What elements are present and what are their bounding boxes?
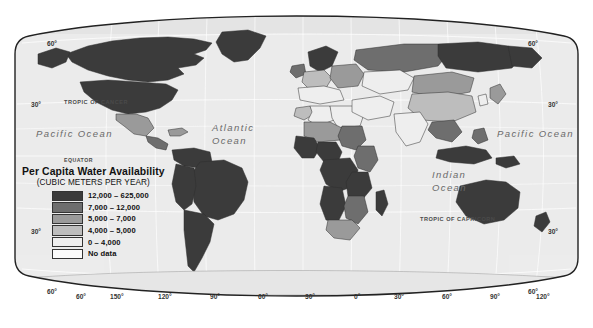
legend-row[interactable]: 5,000 – 7,000 (52, 213, 165, 225)
legend-row[interactable]: 0 – 4,000 (52, 236, 165, 248)
legend-label: 12,000 – 625,000 (88, 191, 149, 200)
country-eastern-europe (330, 64, 364, 88)
legend-row[interactable]: 12,000 – 625,000 (52, 190, 165, 202)
map-legend: Per Capita Water Availability (CUBIC MET… (22, 166, 165, 260)
legend-row[interactable]: 4,000 – 5,000 (52, 225, 165, 237)
legend-swatch (52, 202, 83, 212)
legend-subtitle: (CUBIC METERS PER YEAR) (22, 178, 165, 188)
legend-swatch (52, 214, 83, 224)
region-antarctica (28, 271, 564, 296)
legend-row[interactable]: 7,000 – 12,000 (52, 202, 165, 214)
legend-label: No data (88, 249, 117, 258)
legend-swatch (52, 249, 83, 259)
legend-label: 0 – 4,000 (88, 238, 121, 247)
legend-swatch (52, 191, 83, 201)
legend-title: Per Capita Water Availability (22, 166, 165, 178)
water-availability-world-map: Pacific Ocean Atlantic Ocean Indian Ocea… (0, 0, 593, 328)
legend-label: 4,000 – 5,000 (88, 226, 136, 235)
legend-label: 5,000 – 7,000 (88, 214, 136, 223)
country-korea (478, 94, 488, 106)
legend-swatch (52, 237, 83, 247)
legend-row[interactable]: No data (52, 248, 165, 260)
legend-label: 7,000 – 12,000 (88, 203, 140, 212)
legend-swatch (52, 225, 83, 235)
legend-entries: 12,000 – 625,000 7,000 – 12,000 5,000 – … (52, 190, 165, 260)
